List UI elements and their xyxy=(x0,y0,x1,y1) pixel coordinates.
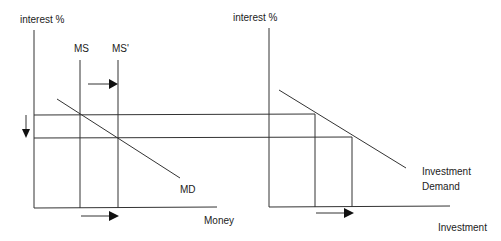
investment-increase-arrow-head-icon xyxy=(344,208,354,218)
left-x-axis xyxy=(34,207,217,208)
interest-rate-line-new xyxy=(34,137,352,138)
ms-shift-arrow-head-icon xyxy=(109,79,118,89)
right-x-axis xyxy=(269,206,450,207)
interest-down-arrow-head-icon xyxy=(22,129,30,138)
money-increase-arrow-head-icon xyxy=(109,211,119,221)
ms-label: MS xyxy=(74,43,89,55)
investment-demand-line xyxy=(279,90,406,168)
interest-rate-line-initial xyxy=(34,114,315,115)
investment-demand-label-line1: Investment xyxy=(422,166,471,178)
md-label: MD xyxy=(180,184,196,196)
money-axis-label: Money xyxy=(204,215,234,227)
money-investment-diagram xyxy=(0,0,501,241)
investment-demand-label-line2: Demand xyxy=(422,181,460,193)
right-y-axis-label: interest % xyxy=(233,12,277,24)
investment-axis-label: Investment xyxy=(438,222,487,234)
ms-prime-label: MS' xyxy=(112,43,129,55)
left-y-axis-label: interest % xyxy=(20,14,64,26)
